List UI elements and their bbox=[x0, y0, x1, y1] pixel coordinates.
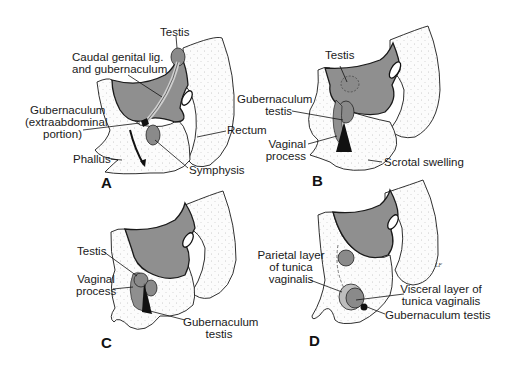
label-d-parietal-line3: vaginalis bbox=[255, 273, 327, 285]
panel-b-drawing bbox=[292, 26, 440, 170]
label-b-scrotal-swelling: Scrotal swelling bbox=[384, 156, 464, 168]
label-c-gubernaculum-line2: testis bbox=[183, 328, 255, 340]
label-d-visceral-line2: tunica vaginalis bbox=[400, 295, 482, 307]
label-a-caudal-line2: and gubernaculum bbox=[72, 63, 167, 75]
panel-letter-a: A bbox=[101, 174, 112, 191]
label-c-vaginal-line1: Vaginal bbox=[76, 273, 116, 285]
label-b-gubernaculum-line1: Gubernaculum bbox=[237, 93, 311, 105]
label-d-parietal-line1: Parietal layer bbox=[255, 249, 327, 261]
label-d-gubernaculum-testis: Gubernaculum testis bbox=[385, 309, 490, 321]
label-c-vaginal-line2: process bbox=[76, 285, 116, 297]
label-b-vaginal-line2: process bbox=[250, 150, 306, 162]
label-a-caudal-line1: Caudal genital lig. bbox=[72, 51, 163, 63]
label-a-testis: Testis bbox=[160, 26, 189, 38]
label-b-testis: Testis bbox=[325, 49, 354, 61]
label-a-gubernaculum-line1: Gubernaculum bbox=[30, 104, 97, 116]
panel-letter-d: D bbox=[309, 332, 320, 349]
label-a-gubernaculum-line3: portion) bbox=[30, 128, 82, 140]
label-a-phallus: Phallus bbox=[73, 153, 111, 165]
label-c-gubernaculum-line1: Gubernaculum bbox=[183, 316, 255, 328]
label-a-gubernaculum-line2: (extraabdominal bbox=[25, 116, 102, 128]
label-d-parietal-line2: of tunica bbox=[255, 261, 327, 273]
panel-letter-c: C bbox=[101, 334, 112, 351]
artist-signature: LF bbox=[435, 262, 442, 268]
label-c-testis: Testis bbox=[77, 245, 106, 257]
panel-letter-b: B bbox=[312, 172, 323, 189]
panel-c-drawing bbox=[104, 191, 236, 329]
label-b-vaginal-line1: Vaginal bbox=[250, 138, 306, 150]
label-d-visceral-line1: Visceral layer of bbox=[400, 283, 482, 295]
label-a-symphysis: Symphysis bbox=[189, 164, 245, 176]
label-a-rectum: Rectum bbox=[227, 124, 267, 136]
label-b-gubernaculum-line2: testis bbox=[237, 105, 292, 117]
